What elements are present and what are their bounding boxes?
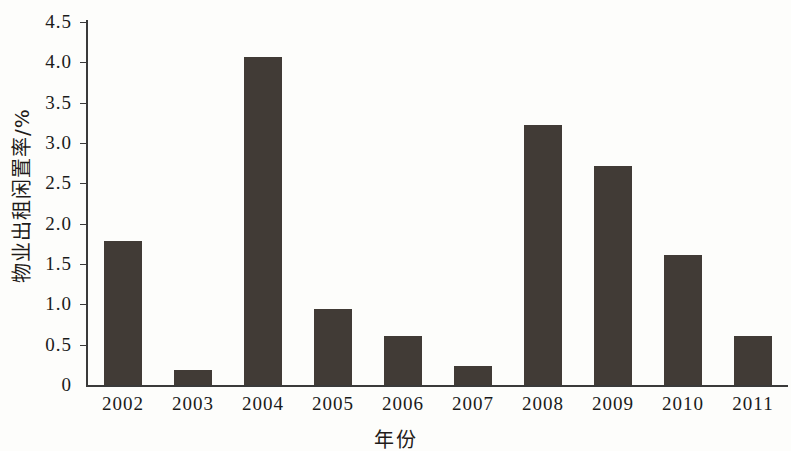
x-axis-tick-label: 2010 xyxy=(648,392,718,416)
y-axis-tick-label-text: 0 xyxy=(26,375,72,394)
y-axis-tick-label: 3.5 xyxy=(26,93,72,112)
y-axis-tick xyxy=(80,143,88,144)
y-axis-tick xyxy=(80,304,88,305)
bar-slot xyxy=(648,22,718,385)
x-axis-tick-label: 2006 xyxy=(368,392,438,416)
bar xyxy=(664,255,702,385)
y-axis-tick-label-text: 3.0 xyxy=(26,133,72,152)
x-axis-tick-labels: 2002200320042005200620072008200920102011 xyxy=(88,392,788,422)
y-axis-tick xyxy=(80,22,88,23)
bar xyxy=(734,336,772,385)
y-axis-tick-label: 2.0 xyxy=(26,214,72,233)
x-axis-title: 年份 xyxy=(0,424,791,451)
bar-slot xyxy=(578,22,648,385)
y-axis-tick-label-text: 2.5 xyxy=(26,173,72,192)
y-axis-tick-label-text: 4.0 xyxy=(26,52,72,71)
bar xyxy=(314,309,352,385)
bar xyxy=(104,241,142,385)
bar xyxy=(524,125,562,385)
y-axis-tick-label: 4.0 xyxy=(26,52,72,71)
y-axis-tick-label: 0.5 xyxy=(26,335,72,354)
bar-slot xyxy=(88,22,158,385)
bar-slot xyxy=(438,22,508,385)
y-axis-tick-label-text: 2.0 xyxy=(26,214,72,233)
y-axis-tick xyxy=(80,103,88,104)
bar xyxy=(244,57,282,385)
x-axis-tick-label: 2002 xyxy=(88,392,158,416)
y-axis-tick xyxy=(80,264,88,265)
y-axis-tick-label: 3.0 xyxy=(26,133,72,152)
bar-slot xyxy=(508,22,578,385)
bar xyxy=(384,336,422,385)
y-axis-tick-label-text: 0.5 xyxy=(26,335,72,354)
x-axis-tick-label: 2011 xyxy=(718,392,788,416)
y-axis-tick xyxy=(80,345,88,346)
x-axis-line xyxy=(86,385,788,387)
y-axis-tick-label: 1.0 xyxy=(26,294,72,313)
x-axis-tick-label: 2003 xyxy=(158,392,228,416)
y-axis-tick xyxy=(80,62,88,63)
bar xyxy=(174,370,212,385)
x-axis-tick-label: 2009 xyxy=(578,392,648,416)
bar-slot xyxy=(298,22,368,385)
y-axis-tick-label-text: 3.5 xyxy=(26,93,72,112)
bar-chart-figure: 物业出租闲置率/% 00.51.01.52.02.53.03.54.04.5 2… xyxy=(0,0,791,451)
y-axis-tick xyxy=(80,183,88,184)
y-axis-tick-label-text: 4.5 xyxy=(26,12,72,31)
bar-slot xyxy=(158,22,228,385)
y-axis-tick-label-text: 1.0 xyxy=(26,294,72,313)
y-axis-tick-label: 1.5 xyxy=(26,254,72,273)
bar-series xyxy=(88,22,788,385)
bar-slot xyxy=(368,22,438,385)
bar xyxy=(454,366,492,385)
y-axis-tick xyxy=(80,224,88,225)
y-axis-tick-label: 4.5 xyxy=(26,12,72,31)
bar-slot xyxy=(228,22,298,385)
bar xyxy=(594,166,632,385)
y-axis-tick-label: 0 xyxy=(26,375,72,394)
bar-slot xyxy=(718,22,788,385)
x-axis-tick-label: 2008 xyxy=(508,392,578,416)
y-axis-tick-label: 2.5 xyxy=(26,173,72,192)
x-axis-tick-label: 2005 xyxy=(298,392,368,416)
x-axis-tick-label: 2007 xyxy=(438,392,508,416)
x-axis-tick-label: 2004 xyxy=(228,392,298,416)
y-axis-tick-label-text: 1.5 xyxy=(26,254,72,273)
